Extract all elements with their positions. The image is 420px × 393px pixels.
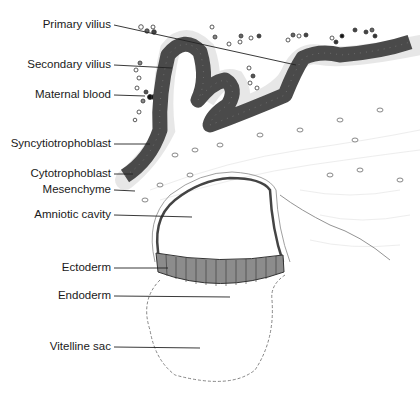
label-ectoderm: Ectoderm (62, 261, 111, 274)
vitelline-sac-wall (147, 275, 285, 381)
label-cytotrophoblast: Cytotrophoblast (30, 167, 111, 180)
label-amniotic-cavity: Amniotic cavity (34, 208, 111, 221)
label-vitelline-sac: Vitelline sac (50, 340, 111, 353)
label-syncytiotrophoblast: Syncytiotrophoblast (11, 137, 111, 150)
label-primary-vilius: Primary vilius (43, 18, 111, 31)
label-maternal-blood: Maternal blood (35, 88, 111, 101)
label-endoderm: Endoderm (58, 289, 111, 302)
label-mesenchyme: Mesenchyme (43, 183, 111, 196)
ectoderm-disc (156, 253, 284, 284)
label-secondary-vilius: Secondary vilius (27, 58, 111, 71)
mesenchyme-cells (142, 108, 403, 202)
